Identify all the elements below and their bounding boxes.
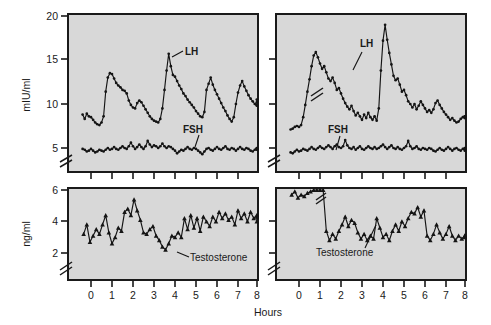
data-point-marker: [314, 148, 317, 151]
data-point-marker: [317, 147, 320, 150]
data-point-marker: [226, 114, 229, 117]
data-point-marker: [445, 113, 448, 116]
data-point-marker: [136, 102, 139, 105]
ytick-label-5: 5: [52, 142, 58, 154]
data-point-marker: [172, 148, 175, 151]
data-point-marker: [182, 149, 185, 152]
data-point-marker: [308, 78, 311, 81]
ytick-label-6: 6: [52, 184, 58, 196]
data-point-marker: [405, 94, 408, 97]
data-point-marker: [247, 94, 250, 97]
data-point-marker: [255, 148, 258, 151]
data-point-marker: [100, 121, 103, 124]
data-point-marker: [375, 119, 378, 122]
data-point-marker: [151, 118, 154, 121]
series-label-fsh-left: FSH: [183, 124, 203, 135]
xtick-label-left-7: 7: [235, 289, 241, 301]
data-point-marker: [195, 148, 198, 151]
data-point-marker: [361, 118, 364, 121]
data-point-marker: [459, 149, 462, 152]
data-point-marker: [197, 149, 200, 152]
data-point-marker: [388, 52, 391, 55]
data-point-marker: [413, 103, 416, 106]
data-point-marker: [220, 102, 223, 105]
data-point-marker: [184, 95, 187, 98]
data-point-marker: [344, 102, 347, 105]
data-point-marker: [159, 145, 162, 148]
data-point-marker: [419, 148, 422, 151]
data-point-marker: [398, 83, 401, 86]
data-point-marker: [102, 115, 105, 118]
data-point-marker: [161, 107, 164, 110]
data-point-marker: [96, 150, 99, 153]
data-point-marker: [338, 87, 341, 90]
data-point-marker: [117, 148, 120, 151]
data-point-marker: [363, 148, 366, 151]
data-point-marker: [228, 118, 231, 121]
data-point-marker: [325, 71, 328, 74]
data-point-marker: [359, 145, 362, 148]
series-label-lh-right: LH: [360, 38, 373, 49]
data-point-marker: [386, 38, 389, 41]
data-point-marker: [121, 145, 124, 148]
xtick-label-left-4: 4: [172, 289, 178, 301]
data-point-marker: [172, 74, 175, 77]
data-point-marker: [293, 150, 296, 153]
data-point-marker: [148, 143, 151, 146]
data-point-marker: [317, 56, 320, 59]
data-point-marker: [380, 69, 383, 72]
data-point-marker: [230, 120, 233, 123]
xtick-label-right-0: 0: [296, 289, 302, 301]
data-point-marker: [140, 101, 143, 104]
data-point-marker: [396, 146, 399, 149]
data-point-marker: [407, 100, 410, 103]
data-point-marker: [319, 62, 322, 65]
data-point-marker: [83, 148, 86, 151]
data-point-marker: [365, 147, 368, 150]
data-point-marker: [201, 153, 204, 156]
data-point-marker: [184, 148, 187, 151]
data-point-marker: [190, 148, 193, 151]
data-point-marker: [390, 63, 393, 66]
data-point-marker: [424, 107, 427, 110]
xtick-label-left-3: 3: [151, 289, 157, 301]
data-point-marker: [113, 77, 116, 80]
data-point-marker: [352, 110, 355, 113]
data-point-marker: [411, 106, 414, 109]
data-point-marker: [390, 144, 393, 147]
data-point-marker: [314, 51, 317, 54]
data-point-marker: [169, 65, 172, 68]
data-point-marker: [430, 148, 433, 151]
panel-top-right: LH FSH: [268, 14, 466, 179]
data-point-marker: [321, 67, 324, 70]
data-point-marker: [207, 82, 210, 85]
data-point-marker: [333, 82, 336, 85]
data-point-marker: [245, 89, 248, 92]
data-point-marker: [251, 100, 254, 103]
data-point-marker: [443, 111, 446, 114]
data-point-marker: [319, 145, 322, 148]
data-point-marker: [85, 112, 88, 115]
data-point-marker: [304, 104, 307, 107]
data-point-marker: [329, 80, 332, 83]
data-point-marker: [409, 103, 412, 106]
data-point-marker: [403, 89, 406, 92]
data-point-marker: [146, 140, 149, 143]
data-point-marker: [98, 124, 101, 127]
data-point-marker: [190, 104, 193, 107]
data-point-marker: [350, 104, 353, 107]
data-point-marker: [125, 92, 128, 95]
data-point-marker: [415, 108, 418, 111]
data-point-marker: [434, 102, 437, 105]
data-point-marker: [451, 117, 454, 120]
data-point-marker: [138, 99, 141, 102]
data-point-marker: [365, 117, 368, 120]
data-point-marker: [310, 146, 313, 149]
data-point-marker: [140, 146, 143, 149]
panel-bottom-left-frame: [68, 188, 258, 280]
series-label-testosterone-left: Testosterone: [190, 252, 248, 263]
data-point-marker: [356, 111, 359, 114]
data-point-marker: [146, 111, 149, 114]
data-point-marker: [159, 118, 162, 121]
data-point-marker: [392, 74, 395, 77]
